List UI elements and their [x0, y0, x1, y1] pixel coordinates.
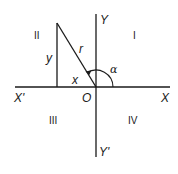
x-negative-label: X' [13, 91, 25, 105]
horizontal-leg-label: x [71, 73, 79, 87]
y-negative-label: Y' [99, 145, 110, 159]
origin-label: O [82, 91, 91, 105]
quadrant-1-label: I [133, 30, 136, 41]
quadrant-2-label: II [34, 30, 40, 41]
vertical-leg-label: y [45, 51, 53, 65]
quadrant-4-label: IV [128, 115, 138, 126]
quadrant-3-label: III [49, 115, 57, 126]
coordinate-diagram: Y Y' X' X O I II III IV r y x α [0, 0, 178, 174]
x-positive-label: X [160, 91, 170, 105]
angle-label: α [110, 63, 118, 76]
y-positive-label: Y [100, 13, 109, 27]
hypotenuse-label: r [79, 42, 84, 56]
